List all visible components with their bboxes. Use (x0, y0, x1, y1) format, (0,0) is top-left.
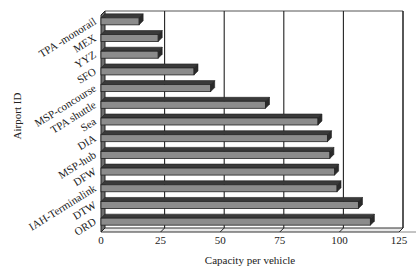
bar (101, 147, 334, 158)
bar (101, 47, 162, 58)
x-axis-title: Capacity per vehicle (205, 254, 296, 266)
x-tick-label: 100 (331, 234, 348, 246)
bars (101, 14, 374, 225)
bar (101, 14, 143, 25)
bar (101, 181, 341, 192)
bar (101, 114, 322, 125)
bar-chart: 0255075100125 TPA -monorailMEXYYZSFOMSP-… (0, 0, 416, 272)
y-axis-category-labels: TPA -monorailMEXYYZSFOMSP-concourseTPA s… (27, 15, 99, 238)
bar (101, 131, 331, 142)
y-axis-category-label: DIA (75, 132, 98, 153)
bar (101, 81, 215, 92)
x-tick-label: 0 (98, 234, 104, 246)
bar (101, 164, 339, 175)
x-tick-label: 75 (274, 234, 286, 246)
x-tick-label: 50 (215, 234, 227, 246)
bar (101, 214, 374, 225)
bar (101, 97, 269, 108)
bar (101, 197, 362, 208)
bar (101, 64, 198, 75)
x-tick-label: 125 (391, 234, 408, 246)
y-axis-title: Airport ID (11, 93, 23, 140)
plot-floor (101, 228, 403, 232)
bar (101, 31, 162, 42)
x-tick-label: 25 (155, 234, 167, 246)
